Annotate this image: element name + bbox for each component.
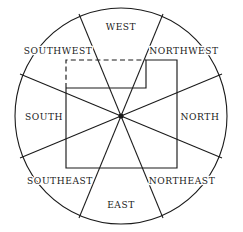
sector-label-north: NORTH (181, 112, 220, 122)
sector-label-northeast: NORTHEAST (149, 176, 216, 186)
sector-label-southeast: SOUTHEAST (27, 176, 93, 186)
compass-sector-diagram: WESTNORTHWESTNORTHNORTHEASTEASTSOUTHEAST… (0, 0, 243, 232)
diagram-root: WESTNORTHWESTNORTHNORTHEASTEASTSOUTHEAST… (0, 0, 243, 232)
sector-label-south: SOUTH (25, 112, 63, 122)
sector-label-west: WEST (106, 22, 136, 32)
sector-label-northwest: NORTHWEST (149, 46, 218, 56)
sector-label-southwest: SOUTHWEST (24, 46, 93, 56)
center-point (118, 113, 123, 118)
sector-label-east: EAST (107, 200, 135, 210)
